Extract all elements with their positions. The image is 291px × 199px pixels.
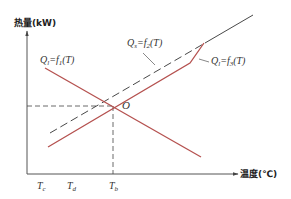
curve-f1-label: Ql=f1(T) [40,55,74,67]
curve-f2-solid [205,15,253,43]
curve-f2-label: Qs=f2(T) [127,38,162,50]
label-arg: (T) [62,54,74,65]
intersection-label: O [122,100,130,111]
tick-sub: c [43,185,46,193]
y-axis-label: 热量(kW) [14,19,56,28]
tick-sub: d [73,185,77,193]
label-eq: =f [220,55,230,66]
label-eq: =f [137,37,147,48]
tick-tc: Tc [37,181,46,193]
curve-f1 [45,68,201,157]
label-eq: =f [49,54,59,65]
label-arg: (T) [150,37,162,48]
tick-sub: b [115,185,119,193]
tick-tb: Tb [109,181,118,193]
x-axis-label: 温度(℃) [240,170,277,179]
tick-td: Td [67,181,76,193]
label-arg: (T) [233,55,245,66]
leader-f2 [143,53,155,65]
leader-f3 [199,59,209,62]
curve-f3-label: Ql=f3(T) [211,56,245,68]
